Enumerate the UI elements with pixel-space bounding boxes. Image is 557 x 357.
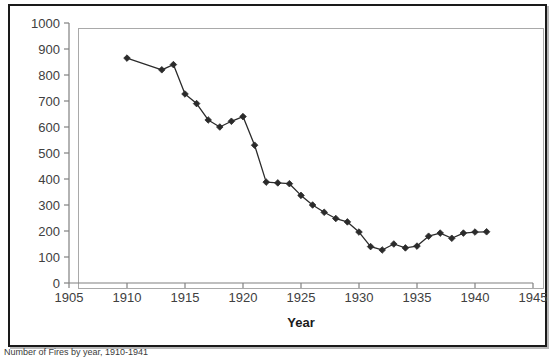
figure-caption: Number of Fires by year, 1910-1941 bbox=[4, 347, 544, 357]
data-point-marker bbox=[402, 245, 409, 252]
data-point-marker bbox=[228, 118, 235, 125]
data-point-marker bbox=[379, 247, 386, 254]
data-point-marker bbox=[437, 230, 444, 237]
y-axis-tick-label: 1000 bbox=[31, 16, 60, 31]
data-point-marker bbox=[170, 61, 177, 68]
data-point-marker bbox=[240, 113, 247, 120]
x-axis-tick-label: 1905 bbox=[55, 290, 84, 305]
y-axis-tick-label: 400 bbox=[38, 172, 60, 187]
data-point-marker bbox=[391, 241, 398, 248]
data-point-marker bbox=[251, 142, 258, 149]
data-point-marker bbox=[321, 209, 328, 216]
x-axis-tick-label: 1940 bbox=[461, 290, 490, 305]
y-axis-tick-label: 100 bbox=[38, 250, 60, 265]
y-axis-tick-label: 800 bbox=[38, 68, 60, 83]
data-point-marker bbox=[124, 55, 131, 62]
data-point-marker bbox=[159, 67, 166, 74]
data-point-marker bbox=[483, 228, 490, 235]
x-axis: 190519101915192019251930193519401945 bbox=[55, 283, 548, 305]
series-line bbox=[127, 58, 487, 250]
x-axis-tick-label: 1920 bbox=[229, 290, 258, 305]
x-axis-tick-label: 1915 bbox=[171, 290, 200, 305]
y-axis-tick-label: 500 bbox=[38, 146, 60, 161]
y-axis-tick-label: 900 bbox=[38, 42, 60, 57]
data-point-marker bbox=[449, 235, 456, 242]
x-axis-tick-label: 1930 bbox=[345, 290, 374, 305]
data-point-marker bbox=[217, 124, 224, 131]
y-axis-tick-label: 200 bbox=[38, 224, 60, 239]
data-point-marker bbox=[460, 230, 467, 237]
data-point-marker bbox=[472, 229, 479, 236]
y-axis-tick-label: 600 bbox=[38, 120, 60, 135]
x-axis-title: Year bbox=[287, 315, 314, 330]
y-axis-tick-label: 300 bbox=[38, 198, 60, 213]
y-axis-tick-label: 700 bbox=[38, 94, 60, 109]
data-point-marker bbox=[333, 215, 340, 222]
data-point-marker bbox=[263, 179, 270, 186]
y-axis: 01002003004005006007008009001000 bbox=[31, 16, 69, 291]
data-point-marker bbox=[275, 180, 282, 187]
y-axis-tick-label: 0 bbox=[53, 276, 60, 291]
x-axis-tick-label: 1945 bbox=[519, 290, 548, 305]
data-series-fires bbox=[124, 55, 490, 253]
x-axis-tick-label: 1935 bbox=[403, 290, 432, 305]
x-axis-tick-label: 1910 bbox=[113, 290, 142, 305]
x-axis-tick-label: 1925 bbox=[287, 290, 316, 305]
